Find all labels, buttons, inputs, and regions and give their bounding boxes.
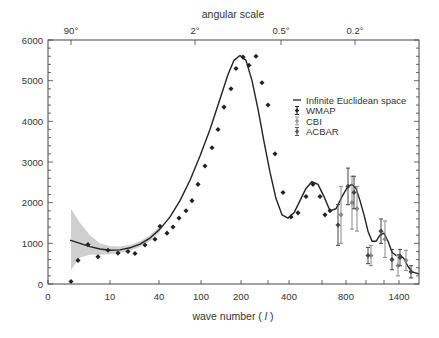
- wmap-point: [189, 198, 194, 203]
- legend: Infinite Euclidean spaceWMAPCBIACBAR: [293, 95, 406, 138]
- legend-label: CBI: [306, 116, 322, 127]
- acbar-errorbars: [335, 168, 413, 278]
- y-tick-label: 3000: [22, 157, 43, 168]
- y-tick-label: 4000: [22, 116, 43, 127]
- wmap-point: [295, 210, 300, 215]
- top-tick-label: 2°: [190, 25, 199, 36]
- wmap-point: [253, 54, 258, 59]
- y-tick-label: 6000: [22, 35, 43, 46]
- y-tick-label: 5000: [22, 75, 43, 86]
- wmap-point: [221, 105, 226, 110]
- y-tick-label: 0: [38, 279, 43, 290]
- wmap-point: [327, 208, 332, 213]
- wmap-point: [272, 151, 277, 156]
- wmap-point: [259, 80, 264, 85]
- model-curve-infinite-euclidean: [70, 55, 419, 273]
- wmap-points: [68, 54, 332, 284]
- legend-label: WMAP: [306, 105, 336, 116]
- x-tick-label: 200: [233, 291, 249, 302]
- cbi-errorbars: [338, 176, 408, 276]
- wmap-point: [228, 86, 233, 91]
- power-spectrum-chart: 0100020003000400050006000 01040100200400…: [0, 0, 439, 338]
- wmap-point: [265, 103, 270, 108]
- legend-label: ACBAR: [306, 126, 339, 137]
- x-tick-label: 40: [154, 291, 165, 302]
- x-axis-title: wave number ( l ): [191, 310, 273, 322]
- errorbar-point: [389, 257, 394, 262]
- x-tick-label: 100: [193, 291, 209, 302]
- x-tick-label: 400: [281, 291, 297, 302]
- y-tick-label: 2000: [22, 197, 43, 208]
- errorbar-point: [338, 212, 343, 217]
- top-axis-angular-scale: 90°2°0.5°0.2°: [64, 25, 364, 45]
- wmap-point: [317, 194, 322, 199]
- wmap-point: [132, 251, 137, 256]
- top-tick-label: 90°: [64, 25, 79, 36]
- x-tick-label: 800: [338, 291, 354, 302]
- wmap-point: [303, 194, 308, 199]
- wmap-point: [68, 279, 73, 284]
- wmap-point: [233, 66, 238, 71]
- wmap-point: [280, 190, 285, 195]
- wmap-point: [209, 145, 214, 150]
- errorbar-point: [365, 253, 370, 258]
- wmap-point: [202, 164, 207, 169]
- y-tick-label: 1000: [22, 238, 43, 249]
- wmap-point: [195, 182, 200, 187]
- wmap-point: [215, 127, 220, 132]
- x-tick-label: 0: [45, 291, 50, 302]
- wmap-point: [95, 254, 100, 259]
- errorbar-point: [378, 229, 383, 234]
- wmap-point: [176, 216, 181, 221]
- x-tick-label: 1400: [388, 291, 409, 302]
- top-tick-label: 0.5°: [272, 25, 289, 36]
- cosmic-variance-band: [71, 209, 160, 270]
- legend-label: Infinite Euclidean space: [306, 95, 406, 106]
- x-tick-label: 10: [105, 291, 116, 302]
- top-axis-title: angular scale: [202, 8, 265, 20]
- wmap-point: [170, 225, 175, 230]
- top-tick-label: 0.2°: [346, 25, 363, 36]
- wmap-point: [164, 231, 169, 236]
- wmap-point: [183, 208, 188, 213]
- x-axis: 010401002004008001400: [45, 280, 409, 302]
- errorbar-point: [408, 269, 413, 274]
- errorbar-point: [335, 222, 340, 227]
- wmap-point: [288, 214, 293, 219]
- wmap-point: [322, 212, 327, 217]
